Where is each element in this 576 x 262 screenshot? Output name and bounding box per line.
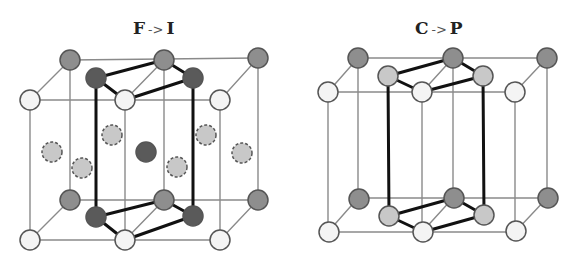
atom-gray [248, 190, 268, 210]
atom-gray [348, 48, 368, 68]
atom-white [20, 230, 40, 250]
atom-gray [60, 190, 80, 210]
atom-light [167, 157, 187, 177]
atom-gray [444, 188, 464, 208]
reduced-cell-edge [388, 76, 389, 216]
atom-gray [154, 50, 174, 70]
atom-light [102, 125, 122, 145]
atom-white [210, 90, 230, 110]
atom-gray [443, 48, 463, 68]
atom-white [20, 90, 40, 110]
atom-dark [86, 207, 106, 227]
atom-gray [537, 48, 557, 68]
atom-white [115, 230, 135, 250]
atom-gray [248, 48, 268, 68]
atom-white [505, 82, 525, 102]
atom-white [210, 230, 230, 250]
atom-dark [183, 68, 203, 88]
atom-white [319, 222, 339, 242]
atom-dark [183, 206, 203, 226]
lattice-diagrams [0, 0, 576, 262]
atom-light [473, 66, 493, 86]
atom-gray [154, 190, 174, 210]
atom-gray [538, 188, 558, 208]
atom-white [318, 82, 338, 102]
atom-white [115, 90, 135, 110]
atom-light [378, 66, 398, 86]
atom-light [42, 142, 62, 162]
atom-light [379, 206, 399, 226]
reduced-cell-edge [483, 76, 484, 215]
atom-gray [349, 189, 369, 209]
atom-dark [136, 142, 156, 162]
atom-gray [60, 50, 80, 70]
atom-white [413, 222, 433, 242]
reduced-cell-top [388, 58, 483, 92]
atom-white [506, 221, 526, 241]
atom-dark [86, 68, 106, 88]
atom-white [412, 82, 432, 102]
atom-light [474, 205, 494, 225]
reduced-cell-bottom [389, 198, 484, 232]
atom-light [72, 158, 92, 178]
atom-light [232, 143, 252, 163]
atom-light [196, 125, 216, 145]
